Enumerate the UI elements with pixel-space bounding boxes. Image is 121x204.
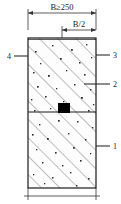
- callout-1-label: 1: [113, 142, 117, 151]
- overall-width-label: B≥250: [50, 2, 73, 12]
- callout-3-label: 3: [113, 51, 117, 60]
- callout-4-label: 4: [7, 52, 11, 61]
- bottom-base-line: [24, 188, 100, 200]
- dimension-overall-width: B≥250: [28, 2, 96, 30]
- figure-container: B≥250 B/2: [0, 0, 121, 204]
- embedded-anchor-block: [58, 103, 70, 113]
- half-width-label: B/2: [73, 19, 85, 29]
- callout-3: 3: [96, 51, 117, 60]
- callout-1: 1: [96, 142, 117, 151]
- callout-4: 4: [7, 52, 28, 61]
- section-diagram: B≥250 B/2: [0, 0, 121, 204]
- callout-2-label: 2: [113, 80, 117, 89]
